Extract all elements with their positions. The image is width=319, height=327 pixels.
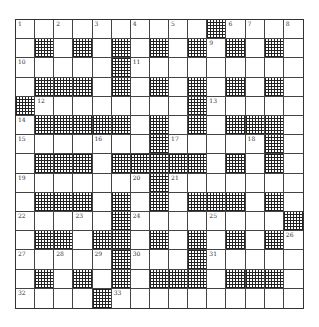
answer-cell[interactable] xyxy=(169,193,188,212)
answer-cell[interactable] xyxy=(93,58,112,77)
answer-cell[interactable] xyxy=(73,231,92,250)
answer-cell[interactable] xyxy=(246,58,265,77)
answer-cell[interactable] xyxy=(16,154,35,173)
answer-cell[interactable] xyxy=(150,58,169,77)
answer-cell[interactable] xyxy=(131,270,150,289)
answer-cell[interactable] xyxy=(246,231,265,250)
answer-cell[interactable] xyxy=(131,116,150,135)
answer-cell[interactable] xyxy=(284,135,303,154)
answer-cell[interactable] xyxy=(284,154,303,173)
answer-cell[interactable] xyxy=(265,20,284,39)
answer-cell[interactable]: 12 xyxy=(35,97,54,116)
answer-cell[interactable] xyxy=(35,250,54,269)
answer-cell[interactable] xyxy=(284,289,303,308)
answer-cell[interactable] xyxy=(284,116,303,135)
answer-cell[interactable] xyxy=(284,78,303,97)
answer-cell[interactable] xyxy=(226,212,245,231)
answer-cell[interactable] xyxy=(207,270,226,289)
answer-cell[interactable]: 13 xyxy=(207,97,226,116)
answer-cell[interactable] xyxy=(265,58,284,77)
answer-cell[interactable] xyxy=(207,135,226,154)
answer-cell[interactable] xyxy=(226,135,245,154)
answer-cell[interactable] xyxy=(131,135,150,154)
answer-cell[interactable] xyxy=(131,289,150,308)
answer-cell[interactable] xyxy=(73,97,92,116)
answer-cell[interactable]: 18 xyxy=(246,135,265,154)
answer-cell[interactable]: 4 xyxy=(131,20,150,39)
answer-cell[interactable] xyxy=(93,154,112,173)
answer-cell[interactable] xyxy=(54,39,73,58)
answer-cell[interactable]: 21 xyxy=(169,174,188,193)
answer-cell[interactable] xyxy=(226,250,245,269)
answer-cell[interactable] xyxy=(131,78,150,97)
answer-cell[interactable] xyxy=(150,250,169,269)
answer-cell[interactable] xyxy=(246,212,265,231)
answer-cell[interactable] xyxy=(188,289,207,308)
answer-cell[interactable] xyxy=(73,20,92,39)
answer-cell[interactable] xyxy=(246,289,265,308)
answer-cell[interactable]: 27 xyxy=(16,250,35,269)
answer-cell[interactable] xyxy=(54,58,73,77)
answer-cell[interactable] xyxy=(73,174,92,193)
answer-cell[interactable] xyxy=(73,58,92,77)
answer-cell[interactable] xyxy=(35,58,54,77)
answer-cell[interactable] xyxy=(131,231,150,250)
answer-cell[interactable]: 28 xyxy=(54,250,73,269)
answer-cell[interactable]: 16 xyxy=(93,135,112,154)
answer-cell[interactable] xyxy=(16,270,35,289)
answer-cell[interactable] xyxy=(150,97,169,116)
answer-cell[interactable] xyxy=(16,231,35,250)
answer-cell[interactable] xyxy=(16,193,35,212)
answer-cell[interactable]: 30 xyxy=(131,250,150,269)
answer-cell[interactable] xyxy=(169,58,188,77)
answer-cell[interactable]: 24 xyxy=(131,212,150,231)
answer-cell[interactable] xyxy=(246,97,265,116)
answer-cell[interactable] xyxy=(246,154,265,173)
answer-cell[interactable] xyxy=(169,231,188,250)
answer-cell[interactable] xyxy=(93,270,112,289)
answer-cell[interactable] xyxy=(284,250,303,269)
answer-cell[interactable] xyxy=(169,289,188,308)
answer-cell[interactable] xyxy=(226,97,245,116)
answer-cell[interactable] xyxy=(54,270,73,289)
answer-cell[interactable] xyxy=(284,174,303,193)
answer-cell[interactable] xyxy=(265,174,284,193)
answer-cell[interactable] xyxy=(284,193,303,212)
answer-cell[interactable] xyxy=(112,20,131,39)
answer-cell[interactable] xyxy=(169,212,188,231)
answer-cell[interactable]: 7 xyxy=(246,20,265,39)
answer-cell[interactable] xyxy=(207,174,226,193)
answer-cell[interactable] xyxy=(131,97,150,116)
answer-cell[interactable] xyxy=(131,193,150,212)
answer-cell[interactable] xyxy=(93,78,112,97)
answer-cell[interactable] xyxy=(93,212,112,231)
answer-cell[interactable] xyxy=(207,154,226,173)
answer-cell[interactable] xyxy=(226,289,245,308)
answer-cell[interactable] xyxy=(131,39,150,58)
answer-cell[interactable] xyxy=(188,212,207,231)
answer-cell[interactable] xyxy=(207,289,226,308)
answer-cell[interactable] xyxy=(246,250,265,269)
answer-cell[interactable]: 3 xyxy=(93,20,112,39)
answer-cell[interactable] xyxy=(35,289,54,308)
answer-cell[interactable] xyxy=(284,97,303,116)
answer-cell[interactable]: 10 xyxy=(16,58,35,77)
answer-cell[interactable] xyxy=(54,174,73,193)
answer-cell[interactable]: 25 xyxy=(207,212,226,231)
answer-cell[interactable] xyxy=(207,58,226,77)
answer-cell[interactable] xyxy=(54,135,73,154)
answer-cell[interactable] xyxy=(265,212,284,231)
answer-cell[interactable]: 31 xyxy=(207,250,226,269)
answer-cell[interactable]: 32 xyxy=(16,289,35,308)
answer-cell[interactable] xyxy=(150,289,169,308)
answer-cell[interactable] xyxy=(207,78,226,97)
answer-cell[interactable] xyxy=(93,174,112,193)
answer-cell[interactable] xyxy=(54,289,73,308)
answer-cell[interactable] xyxy=(112,97,131,116)
answer-cell[interactable] xyxy=(207,231,226,250)
answer-cell[interactable] xyxy=(73,250,92,269)
answer-cell[interactable] xyxy=(188,174,207,193)
answer-cell[interactable] xyxy=(73,289,92,308)
answer-cell[interactable] xyxy=(169,97,188,116)
answer-cell[interactable] xyxy=(93,193,112,212)
